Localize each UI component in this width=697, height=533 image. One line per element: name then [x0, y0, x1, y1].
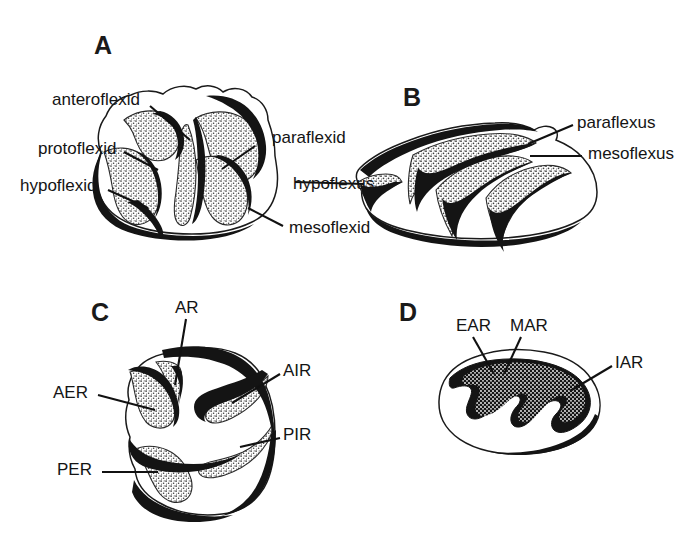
leader-ear — [473, 337, 494, 374]
figure-canvas: A — [0, 0, 697, 533]
label-mesoflexus: mesoflexus — [588, 145, 674, 162]
label-protoflexid: protoflexid — [38, 140, 116, 157]
leader-ar — [175, 319, 186, 385]
leader-mar — [504, 337, 521, 374]
label-air: AIR — [283, 362, 311, 379]
label-pir: PIR — [283, 426, 311, 443]
leader-iar — [570, 366, 612, 391]
panel-d: D EAR MAR IAR — [380, 290, 697, 500]
label-ar: AR — [175, 299, 199, 316]
panel-c: C — [40, 290, 380, 533]
leader-paraflexid — [222, 146, 255, 169]
label-paraflexus: paraflexus — [577, 114, 655, 131]
label-ear: EAR — [456, 317, 491, 334]
label-mar: MAR — [510, 317, 548, 334]
leader-hypoflexid — [108, 190, 148, 208]
leader-paraflexus — [528, 125, 573, 144]
leader-protoflexid — [124, 152, 158, 170]
label-per: PER — [57, 461, 92, 478]
leader-anteroflexid — [150, 106, 190, 140]
label-hypoflexid: hypoflexid — [20, 177, 97, 194]
leader-pir — [240, 438, 280, 447]
leader-mesoflexid — [248, 208, 283, 226]
leader-aer — [98, 395, 155, 410]
label-hypoflexus: hypoflexus — [293, 175, 374, 192]
label-iar: IAR — [615, 354, 643, 371]
panel-c-leaders — [40, 290, 380, 533]
label-aer: AER — [53, 384, 88, 401]
leader-air — [232, 374, 280, 403]
label-anteroflexid: anteroflexid — [52, 91, 140, 108]
